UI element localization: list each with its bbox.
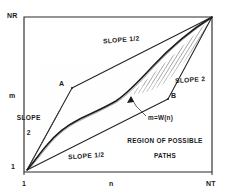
slope-two-left-line2: 2: [27, 129, 31, 136]
y-axis-top-label: NR: [7, 12, 18, 20]
region-label-line1: REGION OF POSSIBLE: [127, 137, 202, 144]
x-axis-mid-label: n: [109, 180, 114, 188]
point-b-label: B: [171, 92, 176, 100]
point-a-label: A: [59, 80, 64, 88]
slope-two-left-line1: SLOPE: [17, 114, 41, 121]
region-label-line2: PATHS: [154, 152, 176, 159]
y-axis-mid-label: m: [9, 92, 16, 100]
y-axis-origin-label: 1: [11, 163, 15, 171]
slope-two-left-label: SLOPE 2: [8, 107, 41, 144]
warping-function-label: m=W(n): [148, 114, 173, 121]
x-axis-end-label: NT: [206, 180, 216, 188]
figure-container: NR m 1 1 n NT SLOPE 1/2 SLOPE 1/2 SLOPE …: [0, 0, 235, 194]
region-of-possible-paths-label: REGION OF POSSIBLE PATHS: [119, 130, 203, 166]
x-axis-origin-label: 1: [22, 180, 26, 188]
